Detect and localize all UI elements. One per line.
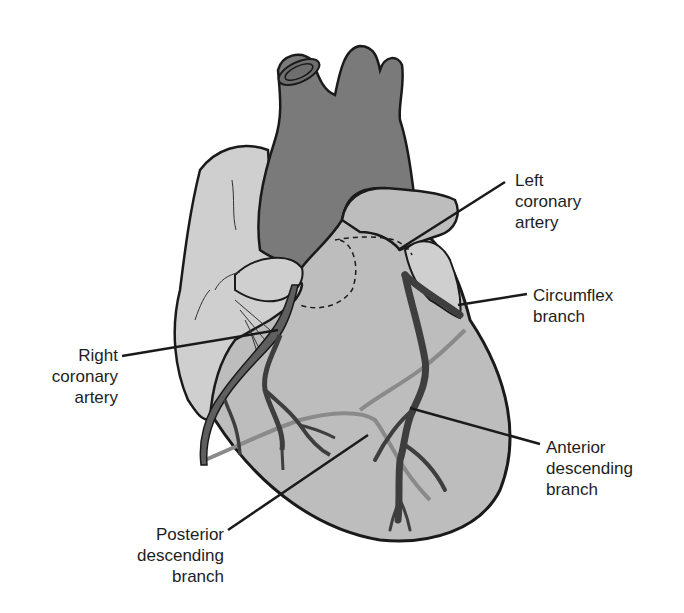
label-circumflex-branch: Circumflex branch xyxy=(533,285,613,327)
coronary-artery-diagram: Left coronary artery Circumflex branch R… xyxy=(0,0,684,613)
label-anterior-descending-branch: Anterior descending branch xyxy=(546,437,633,500)
label-posterior-descending-branch: Posterior descending branch xyxy=(120,524,224,587)
leader-circumflex xyxy=(458,294,527,305)
label-right-coronary-artery: Right coronary artery xyxy=(40,345,118,408)
label-left-coronary-artery: Left coronary artery xyxy=(515,170,581,233)
